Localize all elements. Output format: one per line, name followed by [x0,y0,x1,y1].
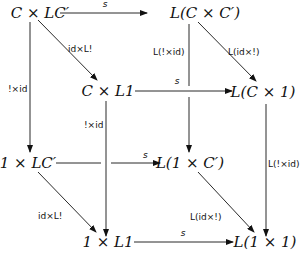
label-1xLC-1xL1: id×L! [38,211,62,221]
commutative-diagram: C × LC′ L(C × C′) C × L1 L(C × 1) 1 × LC… [0,0,300,270]
node-L1xC: L(1 × C′) [155,154,224,172]
label-CxLC-1xLC: !×id [8,84,27,94]
label-LCxC-LCx1: L(id×!) [228,47,259,57]
arrow-1xLC-to-1xL1 [38,172,96,232]
label-LCxC-L1xC: L(!×id) [153,47,184,57]
node-L1x1: L(1 × 1) [233,233,297,251]
node-LCxC: L(C × C′) [169,4,240,22]
label-CxL1-LCx1: s [175,76,180,86]
label-LCx1-L1x1: L(!×id) [268,159,299,169]
label-CxLC-CxL1: id×L! [68,44,92,54]
label-top-s: s [103,0,108,9]
node-1xL1: 1 × L1 [82,233,133,251]
node-CxLC: C × LC′ [11,4,70,22]
node-LCx1: L(C × 1) [230,83,296,101]
label-1xL1-L1x1: s [181,228,186,238]
node-CxL1: C × L1 [81,82,134,100]
label-L1xC-L1x1: L(id×!) [190,212,221,222]
arrow-L1xC-to-L1x1 [198,172,254,232]
label-1xLC-L1xC: s [143,150,148,160]
label-CxL1-1xL1: !×id [84,120,103,130]
node-1xLC: 1 × LC′ [0,154,57,172]
